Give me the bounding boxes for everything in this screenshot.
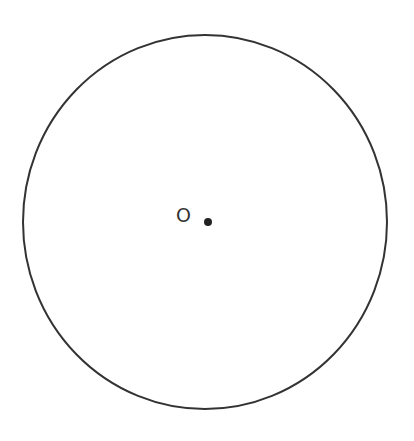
center-point [204, 218, 212, 226]
center-label: O [176, 204, 191, 226]
circle-diagram: O [0, 0, 414, 441]
